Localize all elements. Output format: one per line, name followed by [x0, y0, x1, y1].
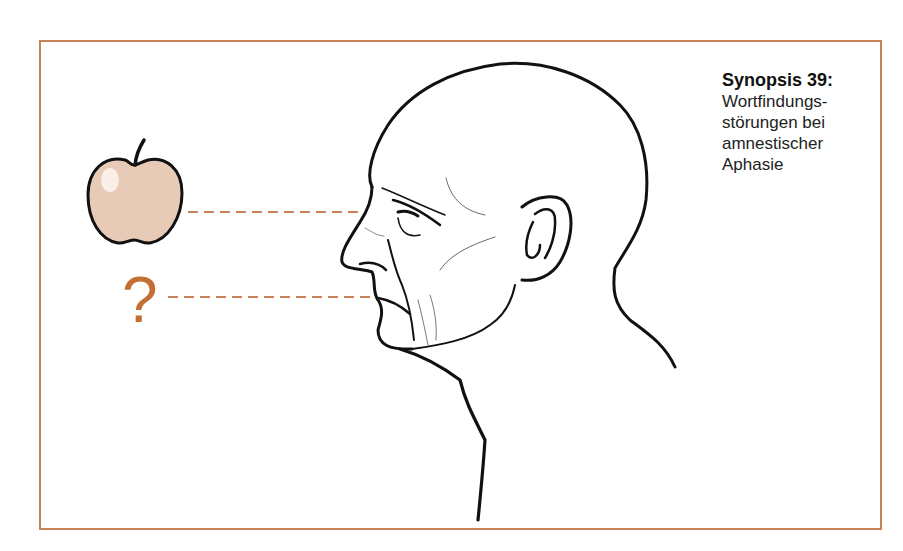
head-profile-icon [342, 63, 675, 520]
ear-icon [522, 197, 571, 280]
caption-line-2: störungen bei [722, 112, 882, 133]
caption-line-1: Wortfindungs- [722, 91, 882, 112]
apple-icon [88, 140, 182, 243]
caption-line-4: Aphasie [722, 154, 882, 175]
caption-line-3: amnestischer [722, 133, 882, 154]
caption-title: Synopsis 39: [722, 70, 882, 91]
caption: Synopsis 39: Wortfindungs- störungen bei… [722, 70, 882, 175]
question-mark-icon: ? [122, 268, 158, 332]
